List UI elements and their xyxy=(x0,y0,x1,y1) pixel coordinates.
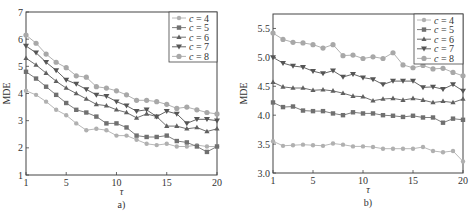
star-marker xyxy=(270,79,275,84)
square-marker xyxy=(381,113,385,117)
plus-marker xyxy=(185,144,189,148)
circle-marker xyxy=(410,65,415,70)
plus-marker xyxy=(441,150,445,154)
triangle-down-marker xyxy=(460,89,466,94)
square-marker xyxy=(291,104,295,108)
square-marker xyxy=(341,113,345,117)
circle-marker xyxy=(390,50,395,55)
y-tick-label: 5.0 xyxy=(258,52,271,63)
circle-marker xyxy=(310,42,315,47)
circle-marker xyxy=(370,54,375,59)
triangle-down-marker xyxy=(380,82,386,87)
triangle-down-marker xyxy=(370,77,376,82)
triangle-down-marker xyxy=(124,104,130,109)
plus-marker xyxy=(361,144,365,148)
square-marker xyxy=(175,139,179,143)
panel-label: a) xyxy=(118,199,126,211)
x-tick-label: 20 xyxy=(212,177,222,188)
plus-marker xyxy=(451,149,455,153)
legend-label: c = 8 xyxy=(189,51,209,62)
square-marker xyxy=(361,111,365,115)
star-marker xyxy=(460,96,465,101)
circle-marker xyxy=(174,106,179,111)
plus-marker xyxy=(381,147,385,151)
square-marker xyxy=(421,115,425,119)
plus-marker xyxy=(321,144,325,148)
plus-marker xyxy=(175,144,179,148)
triangle-down-marker xyxy=(450,82,456,87)
plus-marker xyxy=(331,141,335,145)
y-tick-label: 7 xyxy=(18,7,23,18)
y-tick-label: 4 xyxy=(18,88,23,99)
circle-marker xyxy=(430,66,435,71)
legend: c = 4c = 5c = 6c = 7c = 8 xyxy=(169,12,217,62)
panel-label: b) xyxy=(364,197,372,209)
plus-marker xyxy=(311,143,315,147)
legend-label: c = 8 xyxy=(434,53,454,64)
triangle-down-marker xyxy=(300,65,306,70)
circle-marker xyxy=(280,37,285,42)
circle-marker xyxy=(74,73,79,78)
star-marker xyxy=(23,55,28,60)
square-marker xyxy=(24,70,28,74)
square-marker xyxy=(205,150,209,154)
circle-marker xyxy=(204,110,209,115)
plus-marker xyxy=(281,144,285,148)
plus-marker xyxy=(301,142,305,146)
circle-marker xyxy=(300,40,305,45)
plus-marker xyxy=(351,144,355,148)
circle-marker xyxy=(460,73,465,78)
square-marker xyxy=(64,101,68,105)
x-tick-label: 5 xyxy=(64,177,69,188)
circle-marker xyxy=(360,56,365,61)
circle-marker xyxy=(64,65,69,70)
series-line xyxy=(26,91,217,147)
circle-marker xyxy=(154,99,159,104)
square-marker xyxy=(391,114,395,118)
circle-marker xyxy=(104,85,109,90)
y-tick-label: 3.5 xyxy=(258,139,271,150)
y-tick-label: 6 xyxy=(18,34,23,45)
series-c=5 xyxy=(24,70,219,155)
square-marker xyxy=(351,110,355,114)
square-marker xyxy=(84,110,88,114)
square-marker xyxy=(215,144,219,148)
x-tick-label: 1 xyxy=(271,175,276,186)
star-marker xyxy=(390,96,395,101)
y-tick-label: 3 xyxy=(18,115,23,126)
triangle-down-marker xyxy=(83,87,89,92)
plus-marker xyxy=(291,143,295,147)
line-chart-b: 3.03.54.04.55.05.515101520τMDEb)c = 4c =… xyxy=(237,0,474,217)
circle-marker xyxy=(340,53,345,58)
square-marker xyxy=(431,115,435,119)
square-marker xyxy=(74,108,78,112)
square-marker xyxy=(311,109,315,113)
circle-marker xyxy=(144,98,149,103)
y-tick-label: 2 xyxy=(18,142,23,153)
x-tick-label: 20 xyxy=(458,175,468,186)
plus-marker xyxy=(371,145,375,149)
plus-marker xyxy=(84,128,88,132)
triangle-down-marker xyxy=(340,75,346,80)
plus-marker xyxy=(411,147,415,151)
plus-marker xyxy=(421,145,425,149)
plus-marker xyxy=(104,128,108,132)
star-marker xyxy=(410,96,415,101)
triangle-down-marker xyxy=(320,71,326,76)
square-marker xyxy=(34,76,38,80)
square-marker xyxy=(411,114,415,118)
circle-marker xyxy=(320,46,325,51)
chart-panel-b: 3.03.54.04.55.05.515101520τMDEb)c = 4c =… xyxy=(237,0,474,217)
triangle-down-marker xyxy=(103,94,109,99)
star-marker xyxy=(440,99,445,104)
chart-panel-a: 123456715101520τMDEa)c = 4c = 5c = 6c = … xyxy=(0,0,237,217)
triangle-down-marker xyxy=(184,121,190,126)
x-tick-label: 1 xyxy=(24,177,29,188)
circle-marker xyxy=(214,111,219,116)
star-marker xyxy=(194,125,199,130)
circle-marker xyxy=(421,56,426,61)
circle-marker xyxy=(23,32,28,37)
triangle-down-marker xyxy=(134,109,140,114)
square-marker xyxy=(195,144,199,148)
square-marker xyxy=(441,120,445,124)
